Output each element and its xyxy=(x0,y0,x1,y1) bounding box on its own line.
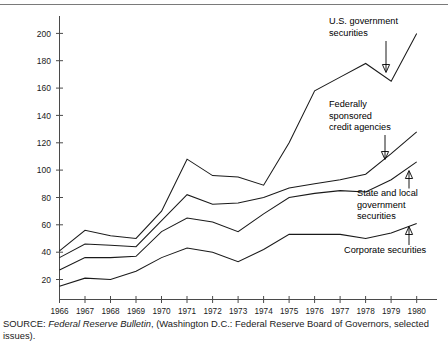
annotation-line: U.S. government xyxy=(329,16,398,26)
x-tick-label: 1966 xyxy=(50,307,69,316)
x-tick-label: 1975 xyxy=(280,307,299,316)
annotation-line: Federally xyxy=(329,99,367,109)
source-note: SOURCE: Federal Reserve Bulletin, (Washi… xyxy=(3,318,445,343)
x-tick-label: 1979 xyxy=(382,307,401,316)
y-tick-label: 100 xyxy=(37,165,51,175)
x-tick-label: 1973 xyxy=(229,307,248,316)
y-tick-label: 20 xyxy=(42,275,52,285)
y-tick-label: 180 xyxy=(37,56,51,66)
y-tick-label: 140 xyxy=(37,111,51,121)
y-tick-label: 160 xyxy=(37,83,51,93)
y-tick-label: 40 xyxy=(42,247,52,257)
annotation-line: securities xyxy=(357,211,396,221)
annotation-federally-sponsored-credit-agencies: Federally sponsored credit agencies xyxy=(329,99,391,160)
x-tick-label: 1969 xyxy=(127,307,146,316)
x-tick-label: 1977 xyxy=(331,307,350,316)
x-tick-label: 1971 xyxy=(178,307,197,316)
x-tick-label: 1967 xyxy=(76,307,95,316)
line-chart: 200 180 160 140 120 100 80 60 40 20 xyxy=(0,0,448,346)
annotation-corporate-securities: Corporate securities xyxy=(344,227,427,256)
annotation-line: State and local xyxy=(357,188,418,198)
x-tick-label: 1972 xyxy=(203,307,222,316)
annotation-state-and-local-government-securities: State and local government securities xyxy=(357,171,418,222)
x-axis-tick-labels: 1966 1967 1968 1969 1970 1971 1972 1973 … xyxy=(50,307,426,316)
source-publication-title: Federal Reserve Bulletin xyxy=(48,318,151,329)
annotation-line: Corporate securities xyxy=(344,245,427,255)
annotation-line: government xyxy=(357,200,406,210)
source-prefix: SOURCE: xyxy=(3,318,48,329)
x-tick-label: 1970 xyxy=(152,307,171,316)
x-tick-label: 1968 xyxy=(101,307,120,316)
x-tick-label: 1978 xyxy=(356,307,375,316)
annotation-line: sponsored xyxy=(329,111,372,121)
annotation-line: securities xyxy=(329,28,368,38)
x-tick-label: 1976 xyxy=(305,307,324,316)
y-axis-tick-labels: 200 180 160 140 120 100 80 60 40 20 xyxy=(37,29,51,285)
y-tick-label: 60 xyxy=(42,220,52,230)
figure-container: 200 180 160 140 120 100 80 60 40 20 xyxy=(0,0,448,346)
x-tick-label: 1974 xyxy=(254,307,273,316)
y-tick-label: 200 xyxy=(37,29,51,39)
y-tick-label: 80 xyxy=(42,193,52,203)
x-tick-label: 1980 xyxy=(408,307,427,316)
y-tick-label: 120 xyxy=(37,138,51,148)
annotation-line: credit agencies xyxy=(329,122,391,132)
